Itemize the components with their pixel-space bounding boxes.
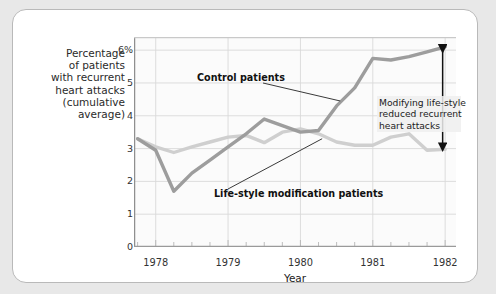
annotation-control-patients: Control patients	[197, 72, 285, 83]
x-axis-tick-label: 1981	[360, 257, 385, 268]
annotation-lifestyle-patients: Life-style modification patients	[214, 188, 383, 199]
x-axis-tick-labels: 19781979198019811982	[13, 10, 496, 294]
x-axis-title: Year	[284, 272, 306, 284]
annotation-gap-callout: Modifying life-style reduced recurrent h…	[377, 96, 461, 132]
x-axis-tick-label: 1978	[143, 257, 168, 268]
chart-screenshot: Percentage of patients with recurrent he…	[0, 0, 496, 294]
x-axis-tick-label: 1982	[433, 257, 458, 268]
x-axis-tick-label: 1980	[288, 257, 313, 268]
annotation-gap-line: reduced recurrent	[379, 108, 459, 119]
x-axis-tick-label: 1979	[216, 257, 241, 268]
chart-card: Percentage of patients with recurrent he…	[12, 9, 478, 283]
annotation-gap-line: heart attacks	[379, 120, 459, 131]
annotation-gap-line: Modifying life-style	[379, 97, 459, 108]
